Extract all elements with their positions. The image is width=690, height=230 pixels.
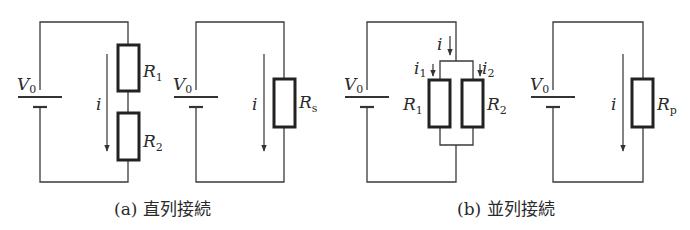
resistor-r2 <box>462 80 483 127</box>
resistor-rp <box>632 79 653 127</box>
series-circuit: V0 R1 R2 i <box>17 22 163 182</box>
resistor-rp-label: Rp <box>656 94 677 117</box>
current-label: i <box>611 94 616 114</box>
battery-icon <box>345 97 389 107</box>
wire <box>553 22 643 90</box>
wire <box>40 108 128 182</box>
wire <box>196 108 284 182</box>
battery-icon <box>531 97 575 107</box>
series-equivalent-circuit: V0 Rs i <box>173 22 318 182</box>
resistor-r1 <box>118 45 139 91</box>
wire <box>440 127 473 145</box>
source-label: V0 <box>530 74 549 96</box>
wire <box>440 61 473 80</box>
circuit-figure: V0 R1 R2 i V0 Rs i (a) 直列接続 V0 <box>0 0 690 230</box>
current-label: i <box>96 94 101 114</box>
current-label: i <box>252 94 257 114</box>
source-label: V0 <box>344 74 363 96</box>
caption-b: (b) 並列接続 <box>457 199 555 219</box>
resistor-rs <box>274 79 295 127</box>
parallel-circuit: V0 R1 R2 i i1 i2 <box>344 22 507 182</box>
wire <box>40 22 128 90</box>
battery-icon <box>18 97 62 107</box>
caption-a: (a) 直列接続 <box>114 199 211 219</box>
branch-current-1-label: i1 <box>414 58 426 80</box>
parallel-equivalent-circuit: V0 Rp i <box>530 22 677 182</box>
resistor-r2 <box>118 113 139 160</box>
branch-current-2-label: i2 <box>482 58 494 80</box>
source-label: V0 <box>17 74 36 96</box>
resistor-r1-label: R1 <box>402 94 423 117</box>
wire <box>196 22 284 90</box>
resistor-r1 <box>429 80 450 127</box>
resistor-r1-label: R1 <box>142 61 163 84</box>
current-label: i <box>437 34 442 54</box>
resistor-r2-label: R2 <box>142 131 163 154</box>
battery-icon <box>174 97 218 107</box>
resistor-r2-label: R2 <box>486 94 507 117</box>
wire <box>553 108 643 182</box>
resistor-rs-label: Rs <box>298 92 318 115</box>
source-label: V0 <box>173 74 192 96</box>
